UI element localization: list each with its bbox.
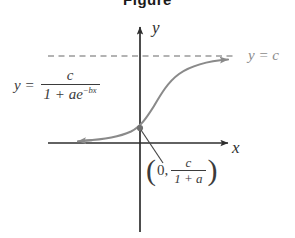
point-label-fraction: c 1 + a (171, 156, 205, 185)
intercept-point-marker (137, 125, 143, 131)
curve-left-arrow (78, 140, 92, 141)
point-label-close-paren: ) (208, 159, 218, 182)
equation-lhs: y = (14, 78, 35, 93)
logistic-curve (85, 60, 228, 141)
graph-canvas (0, 0, 295, 238)
equation-denominator-base: 1 + ae (44, 86, 83, 102)
equation-label: y = c 1 + ae−bx (14, 68, 102, 102)
equation-fraction: c 1 + ae−bx (41, 68, 100, 102)
logistic-function-figure: Figure y x y = c (0, 0, 295, 238)
asymptote-label: y = c (248, 48, 279, 63)
point-label-numerator: c (171, 156, 205, 171)
point-label-x: 0, (157, 163, 168, 178)
y-axis-label: y (152, 19, 160, 36)
equation-exponent: −bx (83, 85, 97, 95)
equation-denominator: 1 + ae−bx (41, 85, 100, 102)
point-label-denominator: 1 + a (171, 171, 205, 185)
point-label: ( 0, c 1 + a ) (146, 156, 218, 185)
equation-numerator: c (41, 68, 100, 85)
point-label-open-paren: ( (146, 159, 156, 182)
x-axis-label: x (232, 139, 240, 156)
